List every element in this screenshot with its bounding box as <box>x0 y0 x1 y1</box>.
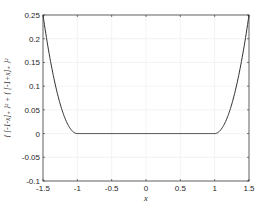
chart: -1.5-1-0.500.511.5 -0.1-0.0500.050.10.15… <box>0 0 264 210</box>
x-tick-label: 1.5 <box>243 184 255 193</box>
y-tick-label: 0.2 <box>29 35 41 44</box>
y-tick-label: 0.05 <box>24 106 40 115</box>
x-tick-label: 0 <box>144 184 149 193</box>
x-tick-label: -0.5 <box>105 184 119 193</box>
x-tick-label: -1 <box>74 184 82 193</box>
x-tick-label: 0.5 <box>175 184 187 193</box>
y-tick-labels: -0.1-0.0500.050.10.150.20.25 <box>22 11 41 186</box>
y-tick-label: -0.05 <box>22 153 41 162</box>
y-axis-label: { [-1-x]₊ }² + { [-1+x]₊ }² <box>3 58 12 138</box>
x-tick-label: 1 <box>212 184 217 193</box>
y-tick-label: 0.15 <box>24 58 40 67</box>
y-tick-label: 0.1 <box>29 82 41 91</box>
x-tick-labels: -1.5-1-0.500.511.5 <box>36 184 255 193</box>
y-tick-label: 0 <box>36 130 41 139</box>
y-tick-label: -0.1 <box>26 177 40 186</box>
y-tick-label: 0.25 <box>24 11 40 20</box>
x-axis-label: x <box>143 193 148 203</box>
grid-lines <box>43 15 249 181</box>
